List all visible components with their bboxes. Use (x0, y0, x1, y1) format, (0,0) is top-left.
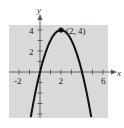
ytick-label-2: 2 (29, 47, 34, 57)
ytick-label-4: 4 (29, 26, 34, 36)
vertex-annotation: (2, 4) (66, 26, 86, 36)
plot-background (9, 25, 108, 118)
xtick-label-neg2: -2 (14, 76, 22, 86)
y-axis-label: y (36, 5, 41, 15)
chart: x y -2 2 6 2 4 (2, 4) (0, 0, 124, 128)
x-axis-label: x (116, 68, 121, 78)
xtick-label-6: 6 (101, 76, 106, 86)
xtick-label-2: 2 (59, 76, 64, 86)
vertex-point (58, 27, 63, 32)
